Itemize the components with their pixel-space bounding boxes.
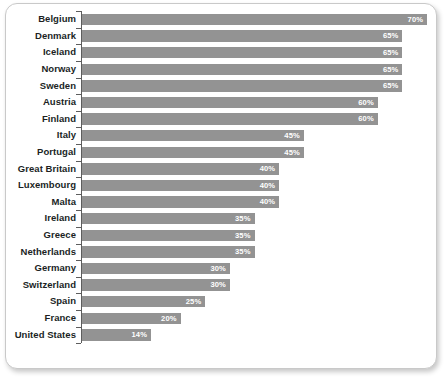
category-label: Denmark bbox=[0, 28, 76, 45]
bar-value-label: 30% bbox=[210, 263, 226, 274]
category-label: United States bbox=[0, 327, 76, 344]
bar-row: Germany30% bbox=[0, 260, 447, 277]
axis-tick bbox=[76, 343, 81, 344]
axis-tick bbox=[76, 310, 81, 311]
bar: 45% bbox=[82, 147, 304, 158]
axis-tick bbox=[76, 194, 81, 195]
bar-row: Belgium70% bbox=[0, 11, 447, 28]
axis-tick bbox=[76, 78, 81, 79]
category-label: Norway bbox=[0, 61, 76, 78]
bar-value-label: 35% bbox=[235, 213, 251, 224]
bar: 60% bbox=[82, 97, 378, 108]
bar: 40% bbox=[82, 163, 279, 174]
bar-row: Finland60% bbox=[0, 111, 447, 128]
bar-value-label: 65% bbox=[383, 30, 399, 41]
bar: 65% bbox=[82, 80, 402, 91]
bar-row: United States14% bbox=[0, 327, 447, 344]
bar: 40% bbox=[82, 196, 279, 207]
bar-row: Italy45% bbox=[0, 127, 447, 144]
bar: 35% bbox=[82, 246, 255, 257]
category-label: Finland bbox=[0, 111, 76, 128]
bar-row: Greece35% bbox=[0, 227, 447, 244]
bar-row: Sweden65% bbox=[0, 78, 447, 95]
category-label: France bbox=[0, 310, 76, 327]
bar: 35% bbox=[82, 230, 255, 241]
bar: 65% bbox=[82, 64, 402, 75]
category-label: Austria bbox=[0, 94, 76, 111]
category-label: Belgium bbox=[0, 11, 76, 28]
bar-value-label: 65% bbox=[383, 47, 399, 58]
category-label: Spain bbox=[0, 293, 76, 310]
category-label: Switzerland bbox=[0, 277, 76, 294]
bar-row: Iceland65% bbox=[0, 44, 447, 61]
bar: 30% bbox=[82, 279, 230, 290]
category-label: Germany bbox=[0, 260, 76, 277]
category-label: Malta bbox=[0, 194, 76, 211]
bar: 70% bbox=[82, 14, 427, 25]
bar-row: Netherlands35% bbox=[0, 244, 447, 261]
axis-tick bbox=[76, 44, 81, 45]
bar-row: Denmark65% bbox=[0, 28, 447, 45]
category-label: Luxembourg bbox=[0, 177, 76, 194]
bar-row: Great Britain40% bbox=[0, 161, 447, 178]
category-label: Italy bbox=[0, 127, 76, 144]
bar-row: Malta40% bbox=[0, 194, 447, 211]
category-label: Iceland bbox=[0, 44, 76, 61]
bar-row: Norway65% bbox=[0, 61, 447, 78]
bar-row: Luxembourg40% bbox=[0, 177, 447, 194]
axis-tick bbox=[76, 227, 81, 228]
bar-value-label: 70% bbox=[408, 14, 424, 25]
bar-value-label: 35% bbox=[235, 246, 251, 257]
axis-tick bbox=[76, 111, 81, 112]
bar-row: Austria60% bbox=[0, 94, 447, 111]
bar: 25% bbox=[82, 296, 205, 307]
axis-tick bbox=[76, 277, 81, 278]
bar-row: Spain25% bbox=[0, 293, 447, 310]
bar: 35% bbox=[82, 213, 255, 224]
category-label: Netherlands bbox=[0, 244, 76, 261]
bar-value-label: 30% bbox=[210, 279, 226, 290]
category-label: Sweden bbox=[0, 78, 76, 95]
axis-tick bbox=[76, 327, 81, 328]
axis-tick bbox=[76, 127, 81, 128]
axis-tick bbox=[76, 177, 81, 178]
axis-tick bbox=[76, 11, 81, 12]
bar-value-label: 40% bbox=[260, 196, 276, 207]
bar-value-label: 60% bbox=[358, 97, 374, 108]
axis-tick bbox=[76, 210, 81, 211]
bar-value-label: 14% bbox=[132, 329, 148, 340]
bar: 65% bbox=[82, 30, 402, 41]
bar: 20% bbox=[82, 313, 181, 324]
category-label: Great Britain bbox=[0, 161, 76, 178]
bar-value-label: 45% bbox=[284, 147, 300, 158]
bar-value-label: 35% bbox=[235, 230, 251, 241]
category-label: Portugal bbox=[0, 144, 76, 161]
axis-tick bbox=[76, 94, 81, 95]
bar-value-label: 65% bbox=[383, 80, 399, 91]
bar-row: Switzerland30% bbox=[0, 277, 447, 294]
bar: 60% bbox=[82, 113, 378, 124]
bar-value-label: 25% bbox=[186, 296, 202, 307]
bar: 14% bbox=[82, 329, 151, 340]
bar-value-label: 40% bbox=[260, 180, 276, 191]
axis-tick bbox=[76, 244, 81, 245]
category-label: Ireland bbox=[0, 210, 76, 227]
bar-row: Ireland35% bbox=[0, 210, 447, 227]
bar-chart: Belgium70%Denmark65%Iceland65%Norway65%S… bbox=[0, 0, 447, 382]
bar-row: France20% bbox=[0, 310, 447, 327]
bar-value-label: 40% bbox=[260, 163, 276, 174]
axis-tick bbox=[76, 293, 81, 294]
axis-tick bbox=[76, 28, 81, 29]
axis-tick bbox=[76, 61, 81, 62]
bar-value-label: 60% bbox=[358, 113, 374, 124]
bar-row: Portugal45% bbox=[0, 144, 447, 161]
bar: 65% bbox=[82, 47, 402, 58]
bar: 40% bbox=[82, 180, 279, 191]
axis-tick bbox=[76, 260, 81, 261]
axis-tick bbox=[76, 144, 81, 145]
axis-tick bbox=[76, 161, 81, 162]
bar: 30% bbox=[82, 263, 230, 274]
bar: 45% bbox=[82, 130, 304, 141]
bar-value-label: 45% bbox=[284, 130, 300, 141]
bar-value-label: 20% bbox=[161, 313, 177, 324]
